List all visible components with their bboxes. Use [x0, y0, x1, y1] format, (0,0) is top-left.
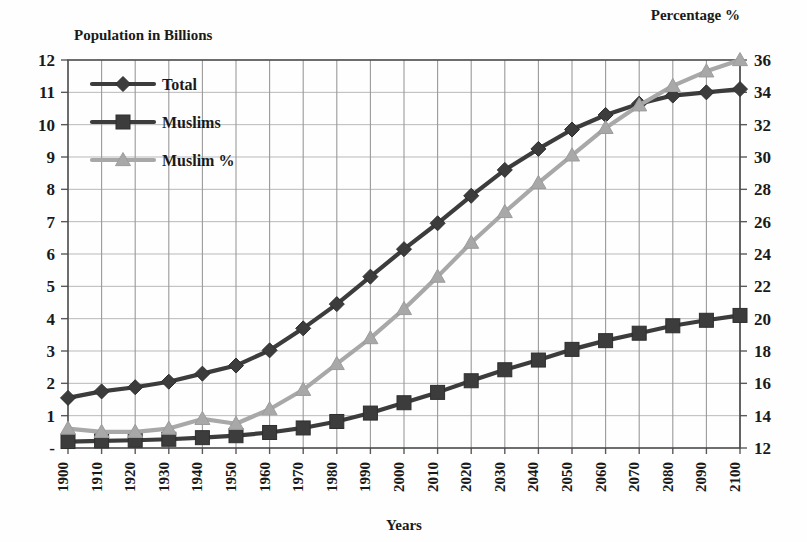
data-point-marker — [464, 374, 478, 388]
legend-item-total[interactable]: Total — [92, 76, 198, 93]
x-axis-tick-label: 2030 — [492, 462, 508, 492]
x-axis-tick-label: 1910 — [89, 462, 105, 492]
x-axis-tick-label: 2020 — [458, 462, 474, 492]
x-axis-tick-label: 2000 — [391, 462, 407, 492]
data-point-marker — [195, 431, 209, 445]
y-axis-right-tick-label: 18 — [754, 342, 771, 361]
y-axis-left-labels: -123456789101112 — [38, 51, 56, 458]
x-axis-tick-label: 1900 — [55, 462, 71, 492]
y-axis-left-title: Population in Billions — [74, 27, 213, 43]
x-axis-tick-label: 1980 — [324, 462, 340, 492]
x-axis-tick-label: 1940 — [189, 462, 205, 492]
data-point-marker — [161, 374, 176, 389]
y-axis-left-tick-label: 12 — [38, 51, 55, 70]
data-point-marker — [397, 396, 411, 410]
x-axis-tick-label: 1920 — [122, 462, 138, 492]
y-axis-right-title: Percentage % — [651, 7, 740, 23]
chart-container: Population in Billions Percentage % Year… — [0, 0, 807, 542]
y-axis-right-ticks — [740, 60, 747, 448]
x-axis-tick-label: 1960 — [257, 462, 273, 492]
y-axis-left-tick-label: - — [49, 439, 55, 458]
data-point-marker — [431, 385, 445, 399]
legend-item-muslims[interactable]: Muslims — [92, 114, 221, 131]
data-point-marker — [61, 390, 76, 405]
y-axis-right-tick-label: 26 — [754, 213, 771, 232]
x-axis-tick-label: 2080 — [660, 462, 676, 492]
x-axis-labels: 1900191019201930194019501960197019801990… — [55, 462, 743, 492]
x-axis-tick-label: 2070 — [626, 462, 642, 492]
y-axis-left-tick-label: 10 — [38, 116, 55, 135]
x-axis-tick-label: 1970 — [290, 462, 306, 492]
y-axis-right-tick-label: 22 — [754, 277, 771, 296]
y-axis-left-tick-label: 1 — [47, 407, 56, 426]
data-point-marker — [229, 358, 244, 373]
data-point-marker — [128, 380, 143, 395]
x-axis-tick-label: 2050 — [559, 462, 575, 492]
data-point-marker — [699, 85, 714, 100]
data-point-marker — [733, 308, 747, 322]
y-axis-right-tick-label: 20 — [754, 310, 771, 329]
y-axis-left-tick-label: 4 — [47, 310, 56, 329]
data-point-marker — [733, 53, 748, 66]
y-axis-right-tick-label: 12 — [754, 439, 771, 458]
population-muslim-percentage-line-chart: Population in Billions Percentage % Year… — [0, 0, 807, 542]
y-axis-left-tick-label: 6 — [47, 245, 56, 264]
x-axis-tick-label: 2040 — [525, 462, 541, 492]
data-point-marker — [699, 313, 713, 327]
data-point-marker — [330, 414, 344, 428]
legend-label: Muslims — [162, 114, 221, 131]
y-axis-right-tick-label: 32 — [754, 116, 771, 135]
y-axis-right-tick-label: 36 — [754, 51, 771, 70]
x-axis-tick-label: 2090 — [693, 462, 709, 492]
data-point-marker — [599, 334, 613, 348]
y-axis-right-tick-label: 28 — [754, 180, 771, 199]
data-point-marker — [263, 425, 277, 439]
y-axis-right-tick-label: 14 — [754, 407, 772, 426]
data-point-marker — [565, 342, 579, 356]
data-point-marker — [666, 319, 680, 333]
y-axis-right-tick-label: 34 — [754, 83, 772, 102]
y-axis-left-tick-label: 9 — [47, 148, 56, 167]
data-point-marker — [363, 406, 377, 420]
data-point-marker — [229, 429, 243, 443]
data-point-marker — [195, 366, 210, 381]
y-axis-right-tick-label: 24 — [754, 245, 772, 264]
data-point-marker — [531, 353, 545, 367]
legend-marker — [116, 115, 130, 129]
legend-item-muslim[interactable]: Muslim % — [92, 152, 234, 169]
x-axis-tick-label: 1990 — [357, 462, 373, 492]
data-point-marker — [632, 326, 646, 340]
y-axis-right-tick-label: 16 — [754, 374, 771, 393]
x-axis-tick-label: 2100 — [727, 462, 743, 492]
y-axis-left-tick-label: 3 — [47, 342, 56, 361]
x-axis-tick-label: 1950 — [223, 462, 239, 492]
data-point-marker — [94, 384, 109, 399]
x-axis-tick-label: 2010 — [425, 462, 441, 492]
legend-label: Muslim % — [162, 152, 234, 169]
x-axis-ticks — [68, 448, 740, 454]
data-point-marker — [733, 82, 748, 97]
y-axis-left-tick-label: 7 — [47, 213, 56, 232]
y-axis-left-tick-label: 8 — [47, 180, 56, 199]
data-point-marker — [61, 435, 75, 449]
y-axis-left-tick-label: 11 — [39, 83, 55, 102]
y-axis-left-tick-label: 2 — [47, 374, 56, 393]
x-axis-title: Years — [386, 517, 422, 533]
x-axis-tick-label: 2060 — [593, 462, 609, 492]
data-point-marker — [498, 363, 512, 377]
y-axis-left-tick-label: 5 — [47, 277, 56, 296]
y-axis-left-ticks — [61, 60, 68, 448]
y-axis-right-tick-label: 30 — [754, 148, 771, 167]
legend-marker — [116, 77, 131, 92]
y-axis-right-labels: 12141618202224262830323436 — [754, 51, 772, 458]
chart-legend: TotalMuslimsMuslim % — [92, 76, 234, 169]
x-axis-tick-label: 1930 — [156, 462, 172, 492]
data-point-marker — [296, 421, 310, 435]
legend-label: Total — [162, 76, 198, 93]
